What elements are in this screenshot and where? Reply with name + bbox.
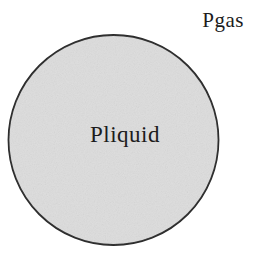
liquid-pressure-label: Pliquid [59,121,191,149]
droplet-pressure-diagram: Pgas Pliquid [0,0,253,260]
gas-pressure-label: Pgas [202,8,244,32]
